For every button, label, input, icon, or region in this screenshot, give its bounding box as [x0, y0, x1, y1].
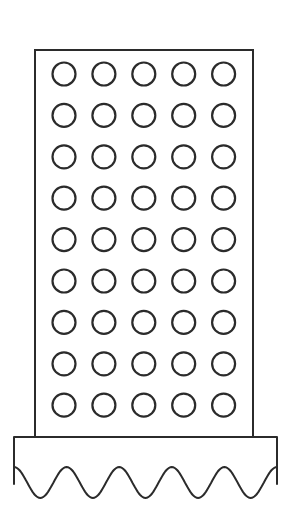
grid-circle: [172, 104, 195, 127]
scalloped-base: [14, 437, 277, 498]
grid-circle: [132, 228, 155, 251]
grid-circle: [53, 352, 76, 375]
grid-circle: [92, 104, 115, 127]
grid-circle: [53, 228, 76, 251]
grid-circle: [172, 311, 195, 334]
grid-circle: [92, 145, 115, 168]
grid-circle: [212, 187, 235, 210]
grid-circle: [212, 311, 235, 334]
grid-circle: [53, 394, 76, 417]
grid-circle: [132, 311, 155, 334]
circle-grid: [53, 63, 236, 417]
grid-circle: [92, 63, 115, 86]
grid-circle: [132, 394, 155, 417]
grid-circle: [172, 270, 195, 293]
grid-circle: [172, 187, 195, 210]
grid-circle: [53, 63, 76, 86]
grid-circle: [212, 145, 235, 168]
grid-circle: [212, 228, 235, 251]
grid-circle: [132, 352, 155, 375]
base-outline: [14, 437, 277, 498]
grid-circle: [53, 270, 76, 293]
grid-circle: [172, 63, 195, 86]
grid-circle: [212, 63, 235, 86]
grid-circle: [132, 104, 155, 127]
grid-circle: [212, 394, 235, 417]
grid-circle: [132, 63, 155, 86]
grid-circle: [92, 311, 115, 334]
grid-panel: [35, 50, 253, 437]
grid-circle: [92, 228, 115, 251]
grid-circle: [212, 104, 235, 127]
grid-circle: [212, 352, 235, 375]
grid-circle: [212, 270, 235, 293]
grid-circle: [92, 394, 115, 417]
grid-circle: [172, 394, 195, 417]
grid-circle: [132, 145, 155, 168]
grid-circle: [53, 104, 76, 127]
grid-circle: [53, 311, 76, 334]
grid-circle: [92, 270, 115, 293]
grid-circle: [172, 228, 195, 251]
grid-circle: [172, 145, 195, 168]
grid-circle: [132, 187, 155, 210]
grid-circle: [92, 187, 115, 210]
illustration: [0, 0, 285, 521]
grid-circle: [53, 187, 76, 210]
grid-circle: [172, 352, 195, 375]
drawing-canvas: [0, 0, 285, 521]
grid-circle: [53, 145, 76, 168]
grid-circle: [92, 352, 115, 375]
grid-circle: [132, 270, 155, 293]
panel-outline: [35, 50, 253, 437]
